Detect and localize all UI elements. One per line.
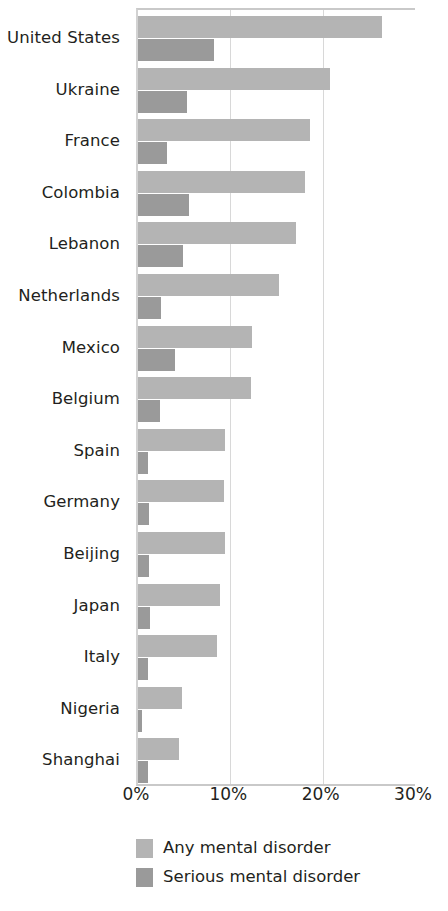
legend-label: Any mental disorder: [163, 840, 331, 857]
bar-any-mental-disorder: [138, 16, 382, 38]
legend-swatch-icon: [136, 868, 153, 887]
bar-serious-mental-disorder: [138, 658, 148, 680]
bar-serious-mental-disorder: [138, 39, 214, 61]
bar-serious-mental-disorder: [138, 555, 149, 577]
category-label: Netherlands: [0, 288, 120, 305]
bar-any-mental-disorder: [138, 635, 217, 657]
legend-swatch-icon: [136, 839, 153, 858]
bar-any-mental-disorder: [138, 584, 220, 606]
bar-serious-mental-disorder: [138, 710, 142, 732]
bar-any-mental-disorder: [138, 119, 310, 141]
bar-serious-mental-disorder: [138, 245, 183, 267]
x-tick-label: 20%: [302, 786, 340, 803]
mental-disorder-prevalence-chart: United StatesUkraineFranceColombiaLebano…: [0, 0, 448, 911]
category-label: United States: [0, 30, 120, 47]
bar-serious-mental-disorder: [138, 194, 189, 216]
bar-serious-mental-disorder: [138, 503, 149, 525]
category-label: Mexico: [0, 340, 120, 357]
bar-any-mental-disorder: [138, 429, 225, 451]
bar-any-mental-disorder: [138, 171, 305, 193]
category-label: France: [0, 133, 120, 150]
bar-any-mental-disorder: [138, 532, 225, 554]
bar-serious-mental-disorder: [138, 349, 175, 371]
category-label: Shanghai: [0, 752, 120, 769]
category-label: Germany: [0, 494, 120, 511]
category-label: Italy: [0, 649, 120, 666]
category-label: Lebanon: [0, 236, 120, 253]
bar-serious-mental-disorder: [138, 91, 187, 113]
bar-any-mental-disorder: [138, 738, 179, 760]
bar-any-mental-disorder: [138, 326, 252, 348]
legend-label: Serious mental disorder: [163, 869, 360, 886]
bar-serious-mental-disorder: [138, 297, 161, 319]
bar-any-mental-disorder: [138, 480, 224, 502]
x-tick-label: 0%: [123, 786, 150, 803]
category-label: Ukraine: [0, 82, 120, 99]
chart-legend: Any mental disorderSerious mental disord…: [136, 834, 436, 892]
plot-area: [136, 8, 415, 786]
x-axis-tick-labels: 0%10%20%30%: [136, 786, 413, 816]
bar-serious-mental-disorder: [138, 142, 167, 164]
bar-any-mental-disorder: [138, 68, 330, 90]
category-axis-labels: United StatesUkraineFranceColombiaLebano…: [0, 8, 128, 782]
bar-serious-mental-disorder: [138, 400, 160, 422]
category-label: Japan: [0, 598, 120, 615]
category-label: Belgium: [0, 391, 120, 408]
plot-inner: [138, 10, 415, 784]
category-label: Beijing: [0, 546, 120, 563]
x-tick-label: 10%: [209, 786, 247, 803]
plot-wrapper: United StatesUkraineFranceColombiaLebano…: [0, 0, 448, 800]
bar-serious-mental-disorder: [138, 607, 150, 629]
x-tick-label: 30%: [394, 786, 432, 803]
legend-item[interactable]: Any mental disorder: [136, 834, 436, 863]
legend-item[interactable]: Serious mental disorder: [136, 863, 436, 892]
category-label: Spain: [0, 443, 120, 460]
bar-any-mental-disorder: [138, 377, 251, 399]
bar-serious-mental-disorder: [138, 761, 148, 783]
bar-any-mental-disorder: [138, 274, 279, 296]
category-label: Colombia: [0, 185, 120, 202]
bar-serious-mental-disorder: [138, 452, 148, 474]
bar-any-mental-disorder: [138, 222, 296, 244]
bar-any-mental-disorder: [138, 687, 182, 709]
gridline: [323, 10, 324, 784]
category-label: Nigeria: [0, 701, 120, 718]
